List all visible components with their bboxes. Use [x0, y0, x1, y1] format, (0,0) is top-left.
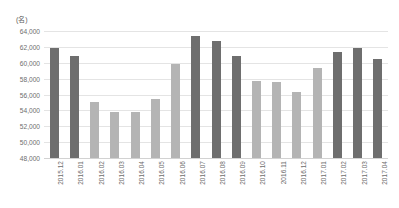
y-axis-unit-label: (名)	[16, 14, 28, 24]
x-axis-tick-labels: 2015.122016.012016.022016.032016.042016.…	[44, 159, 388, 208]
bar[interactable]	[252, 81, 261, 158]
x-axis-tick-label: 2015.12	[57, 161, 64, 185]
x-axis-tick-label: 2017.01	[320, 161, 327, 185]
bar[interactable]	[353, 48, 362, 158]
bar-chart: (名) 64,00062,00060,00058,00056,00054,000…	[0, 0, 399, 208]
x-axis-tick-label: 2016.02	[98, 161, 105, 185]
y-axis-tick-label: 62,000	[20, 43, 40, 50]
y-axis-tick-labels: 64,00062,00060,00058,00056,00054,00052,0…	[0, 31, 40, 158]
x-axis-tick-label: 2016.11	[280, 161, 287, 184]
bar[interactable]	[151, 99, 160, 158]
bar[interactable]	[110, 112, 119, 158]
x-axis-tick-label: 2016.08	[219, 161, 226, 185]
x-axis-tick-label: 2016.03	[118, 161, 125, 185]
x-axis-tick-label: 2016.10	[259, 161, 266, 185]
y-axis-tick-label: 52,000	[20, 123, 40, 130]
bar[interactable]	[90, 102, 99, 158]
bar[interactable]	[171, 64, 180, 158]
bar[interactable]	[212, 41, 221, 158]
x-axis-tick-label: 2016.05	[158, 161, 165, 185]
bar[interactable]	[70, 56, 79, 158]
bar[interactable]	[373, 59, 382, 158]
y-axis-tick-label: 50,000	[20, 139, 40, 146]
y-axis-tick-label: 54,000	[20, 107, 40, 114]
x-axis-tick-label: 2017.03	[361, 161, 368, 185]
x-axis-tick-label: 2016.07	[199, 161, 206, 185]
bar[interactable]	[333, 52, 342, 158]
gridline	[44, 31, 388, 32]
y-axis-tick-label: 58,000	[20, 75, 40, 82]
x-axis-tick-label: 2016.04	[138, 161, 145, 185]
bar[interactable]	[232, 56, 241, 158]
x-axis-tick-label: 2016.06	[179, 161, 186, 185]
x-axis-tick-label: 2016.12	[300, 161, 307, 185]
y-axis-tick-label: 48,000	[20, 155, 40, 162]
bar[interactable]	[131, 112, 140, 158]
bar[interactable]	[292, 92, 301, 158]
bar[interactable]	[313, 68, 322, 158]
bar[interactable]	[50, 48, 59, 158]
x-axis-tick-label: 2016.09	[239, 161, 246, 185]
plot-area	[44, 31, 388, 158]
y-axis-tick-label: 60,000	[20, 59, 40, 66]
bar[interactable]	[272, 82, 281, 158]
bar[interactable]	[191, 36, 200, 158]
x-axis-tick-label: 2016.01	[77, 161, 84, 185]
y-axis-tick-label: 64,000	[20, 28, 40, 35]
x-axis-tick-label: 2017.04	[381, 161, 388, 185]
y-axis-tick-label: 56,000	[20, 91, 40, 98]
x-axis-tick-label: 2017.02	[340, 161, 347, 185]
